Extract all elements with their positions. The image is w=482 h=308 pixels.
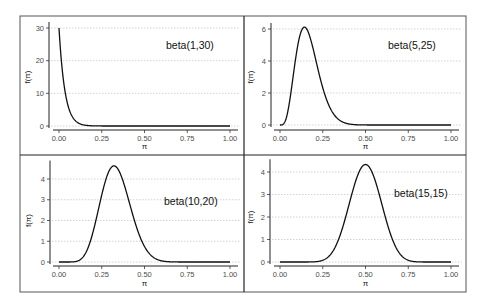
y-tick-label: 4 xyxy=(261,168,265,177)
x-tick-label: 0.75 xyxy=(180,270,195,279)
x-tick-label: 0.00 xyxy=(52,134,67,143)
panel-label: beta(5,25) xyxy=(388,39,436,51)
y-tick-label: 1 xyxy=(261,235,265,244)
y-tick-label: 2 xyxy=(41,216,45,225)
panel-beta-5-25: beta(5,25) 02460.000.250.500.751.00πf(π) xyxy=(246,23,462,151)
density-curve xyxy=(280,164,451,262)
x-tick-label: 0.50 xyxy=(137,270,152,279)
y-tick-label: 3 xyxy=(261,190,265,199)
x-tick-label: 1.00 xyxy=(223,270,238,279)
panel-label: beta(10,20) xyxy=(164,195,218,207)
y-tick-label: 6 xyxy=(262,25,266,34)
y-tick-label: 10 xyxy=(36,89,44,98)
x-tick-label: 0.25 xyxy=(315,134,330,143)
gridlines xyxy=(272,172,462,262)
y-tick-label: 2 xyxy=(262,89,266,98)
x-tick-label: 0.75 xyxy=(401,270,416,279)
x-tick-label: 0.00 xyxy=(273,270,288,279)
y-axis-title: f(π) xyxy=(246,70,255,83)
x-tick-label: 0.75 xyxy=(401,134,416,143)
x-tick-label: 0.00 xyxy=(52,270,67,279)
x-axis-title: π xyxy=(142,279,148,288)
y-axis-title: f(π) xyxy=(24,214,33,227)
x-tick-label: 0.00 xyxy=(273,134,288,143)
panel-beta-15-15: beta(15,15) 012340.000.250.500.751.00πf(… xyxy=(246,159,462,288)
x-tick-label: 0.75 xyxy=(180,134,195,143)
x-tick-label: 0.25 xyxy=(315,270,330,279)
y-tick-label: 1 xyxy=(41,237,45,246)
y-axis-title: f(π) xyxy=(246,210,255,223)
x-axis-title: π xyxy=(142,142,148,151)
x-axis-title: π xyxy=(363,279,369,288)
y-tick-label: 0 xyxy=(40,122,44,131)
axes: 012340.000.250.500.751.00πf(π) xyxy=(24,161,238,288)
y-tick-label: 0 xyxy=(261,258,265,267)
axes: 012340.000.250.500.751.00πf(π) xyxy=(246,159,459,288)
y-tick-label: 20 xyxy=(36,56,44,65)
x-axis-title: π xyxy=(363,142,369,151)
y-tick-label: 2 xyxy=(261,213,265,222)
y-tick-label: 0 xyxy=(41,258,45,267)
panel-beta-10-20: beta(10,20) 012340.000.250.500.751.00πf(… xyxy=(24,161,240,288)
beta-distribution-figure: beta(1,30) 01020300.000.250.500.751.00πf… xyxy=(0,0,482,308)
panel-beta-1-30: beta(1,30) 01020300.000.250.500.751.00πf… xyxy=(23,22,240,151)
x-tick-label: 0.50 xyxy=(358,270,373,279)
x-tick-label: 0.25 xyxy=(94,270,109,279)
x-tick-label: 0.25 xyxy=(94,134,109,143)
y-axis-title: f(π) xyxy=(23,70,32,83)
y-tick-label: 4 xyxy=(262,57,266,66)
panel-label: beta(15,15) xyxy=(394,187,448,199)
x-tick-label: 1.00 xyxy=(223,134,238,143)
y-tick-label: 3 xyxy=(41,195,45,204)
chart-canvas: beta(1,30) 01020300.000.250.500.751.00πf… xyxy=(0,0,482,308)
y-tick-label: 4 xyxy=(41,175,45,184)
x-tick-label: 1.00 xyxy=(444,270,459,279)
x-tick-label: 1.00 xyxy=(444,134,459,143)
y-tick-label: 30 xyxy=(36,24,44,33)
density-curve xyxy=(59,166,230,262)
panel-label: beta(1,30) xyxy=(166,39,214,51)
y-tick-label: 0 xyxy=(262,121,266,130)
